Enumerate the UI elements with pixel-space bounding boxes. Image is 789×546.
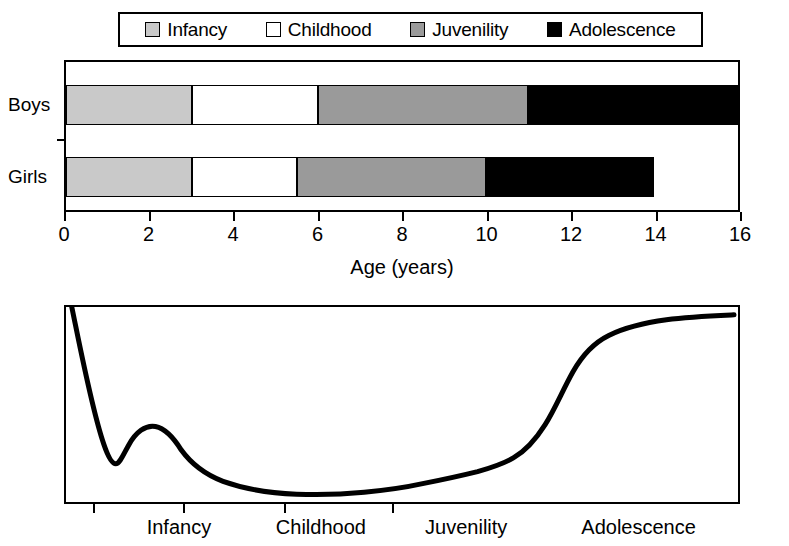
- bar-category-label-boys: Boys: [8, 94, 62, 116]
- bar-x-tick: [656, 212, 658, 221]
- bar-segment-girls-childhood: [192, 157, 297, 197]
- figure-root: Infancy Childhood Juvenility Adolescence…: [0, 0, 789, 546]
- curve-x-axis-ticks: [64, 504, 740, 513]
- bar-x-ticklabel-10: 10: [475, 223, 497, 245]
- bar-segment-boys-juvenility: [318, 85, 528, 125]
- bar-x-axis-label: Age (years): [64, 256, 740, 279]
- legend-label-juvenility: Juvenility: [432, 20, 508, 39]
- bar-x-ticklabel-14: 14: [644, 223, 666, 245]
- bar-x-ticklabel-12: 12: [560, 223, 582, 245]
- sex-hormones-curve-svg: [66, 307, 738, 502]
- legend-swatch-infancy: [145, 22, 160, 37]
- curve-x-tick-adolescence: [392, 504, 394, 513]
- bar-chart-plot-area: [64, 60, 740, 212]
- curve-x-tick-childhood: [183, 504, 185, 513]
- bar-x-tick: [318, 212, 320, 221]
- legend-label-adolescence: Adolescence: [569, 20, 676, 39]
- legend-entry-childhood: Childhood: [266, 20, 372, 39]
- curve-phase-label-juvenility: Juvenility: [425, 515, 507, 539]
- legend-swatch-childhood: [266, 22, 281, 37]
- bar-x-tick: [233, 212, 235, 221]
- curve-phase-label-adolescence: Adolescence: [581, 515, 696, 539]
- bar-segment-girls-adolescence: [486, 157, 654, 197]
- bar-stack-girls: [66, 157, 738, 197]
- bar-x-tick: [149, 212, 151, 221]
- bar-stack-boys: [66, 85, 738, 125]
- bar-x-tick: [740, 212, 742, 221]
- curve-phase-label-infancy: Infancy: [147, 515, 211, 539]
- bar-x-tick: [487, 212, 489, 221]
- bar-segment-boys-childhood: [192, 85, 318, 125]
- sex-hormones-curve-path: [71, 307, 734, 495]
- curve-x-tick-juvenility: [284, 504, 286, 513]
- legend: Infancy Childhood Juvenility Adolescence: [118, 12, 703, 47]
- bar-segment-boys-infancy: [66, 85, 192, 125]
- bar-x-ticklabel-8: 8: [396, 223, 407, 245]
- legend-swatch-adolescence: [547, 22, 562, 37]
- bar-x-ticklabel-4: 4: [227, 223, 238, 245]
- curve-chart-plot-area: [64, 305, 740, 504]
- bar-x-ticklabel-2: 2: [143, 223, 154, 245]
- bar-x-ticklabel-6: 6: [312, 223, 323, 245]
- legend-entry-adolescence: Adolescence: [547, 20, 676, 39]
- bar-x-ticklabel-16: 16: [729, 223, 751, 245]
- curve-x-tick-infancy: [93, 504, 95, 513]
- bar-x-axis-tick-labels: 0 2 4 6 8 10 12 14 16: [64, 223, 740, 247]
- curve-phase-label-childhood: Childhood: [276, 515, 366, 539]
- legend-entry-infancy: Infancy: [145, 20, 227, 39]
- bar-segment-girls-juvenility: [297, 157, 486, 197]
- bar-segment-boys-adolescence: [528, 85, 738, 125]
- bar-x-ticklabel-0: 0: [58, 223, 69, 245]
- legend-label-infancy: Infancy: [167, 20, 227, 39]
- legend-entry-juvenility: Juvenility: [410, 20, 508, 39]
- bar-x-tick: [402, 212, 404, 221]
- legend-label-childhood: Childhood: [288, 20, 372, 39]
- bar-x-axis-ticks: [64, 212, 740, 221]
- bar-x-tick: [571, 212, 573, 221]
- bar-category-label-girls: Girls: [8, 166, 62, 188]
- legend-swatch-juvenility: [410, 22, 425, 37]
- bar-segment-girls-infancy: [66, 157, 192, 197]
- bar-x-tick: [64, 212, 66, 221]
- curve-x-axis-phase-labels: Infancy Childhood Juvenility Adolescence: [64, 515, 740, 541]
